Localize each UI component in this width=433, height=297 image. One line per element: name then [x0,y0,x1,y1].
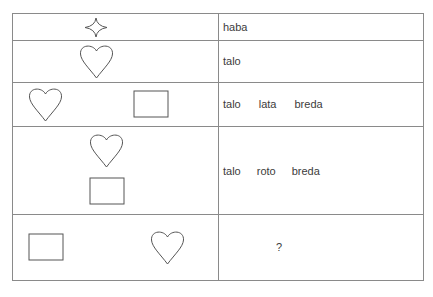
row-3-text: talolatabreda [223,98,323,110]
column-divider [218,13,219,281]
row-divider [12,126,424,127]
row-2-text: talo [223,55,241,67]
row-5-text: ? [276,241,282,253]
word: haba [223,21,247,33]
heart-icon [150,229,185,266]
row-4-text: talorotobreda [223,165,320,177]
row-divider [12,82,424,83]
word: talo [223,98,241,110]
word: breda [295,98,323,110]
rectangle-icon [133,90,170,119]
word: roto [257,165,276,177]
row-divider [12,40,424,41]
word: lata [259,98,277,110]
rectangle-icon [28,233,65,262]
star-icon [84,17,108,38]
row-1-text: haba [223,21,247,33]
heart-icon [89,132,124,169]
word: talo [223,55,241,67]
rectangle-icon [89,177,126,206]
row-divider [12,214,424,215]
word: breda [292,165,320,177]
heart-icon [79,43,114,80]
question-mark: ? [276,241,282,253]
word: talo [223,165,241,177]
heart-icon [28,86,63,123]
